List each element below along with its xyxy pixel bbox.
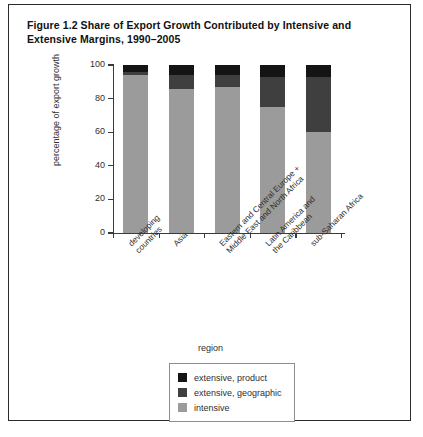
y-axis-tick-labels: 020406080100 <box>75 5 105 437</box>
legend-swatch-icon <box>178 373 187 382</box>
y-axis-tick-label: 100 <box>79 59 105 69</box>
bar-segment-intensive[interactable] <box>123 75 148 233</box>
bar-segment-extensive-product[interactable] <box>260 65 285 77</box>
legend-item-3[interactable]: intensive <box>178 400 282 415</box>
y-axis-tick-label: 60 <box>79 126 105 136</box>
legend-swatch-icon <box>178 388 187 397</box>
legend-item-label: intensive <box>194 403 230 413</box>
bar-segment-extensive-geographic[interactable] <box>215 75 240 87</box>
x-axis-title: region <box>9 343 412 353</box>
bar-segment-intensive[interactable] <box>215 87 240 233</box>
x-axis-tick <box>113 233 114 238</box>
y-axis-tick-100 <box>108 64 113 65</box>
bar-segment-intensive[interactable] <box>169 89 194 233</box>
x-axis-tick <box>204 233 205 238</box>
y-axis-title: percentage of export growth <box>51 30 61 190</box>
bar-segment-extensive-product[interactable] <box>215 65 240 75</box>
bar-1[interactable] <box>123 65 148 233</box>
bar-3[interactable] <box>215 65 240 233</box>
y-axis-tick-40 <box>108 165 113 166</box>
bar-2[interactable] <box>169 65 194 233</box>
legend-swatch-icon <box>178 403 187 412</box>
legend-item-label: extensive, geographic <box>194 388 282 398</box>
y-axis-tick-80 <box>108 98 113 99</box>
bar-segment-extensive-geographic[interactable] <box>123 72 148 75</box>
bar-segment-extensive-product[interactable] <box>123 65 148 72</box>
legend-item-label: extensive, product <box>194 373 267 383</box>
x-axis-tick <box>341 233 342 238</box>
legend-item-2[interactable]: extensive, geographic <box>178 385 282 400</box>
y-axis-tick-20 <box>108 199 113 200</box>
y-axis-tick-label: 40 <box>79 160 105 170</box>
y-axis-tick-label: 0 <box>79 227 105 237</box>
y-axis-tick-60 <box>108 132 113 133</box>
bar-segment-extensive-product[interactable] <box>169 65 194 75</box>
bar-segment-extensive-geographic[interactable] <box>306 77 331 132</box>
figure-frame: Figure 1.2 Share of Export Growth Contri… <box>8 4 411 421</box>
y-axis-tick-label: 20 <box>79 193 105 203</box>
bar-segment-extensive-product[interactable] <box>306 65 331 77</box>
chart-legend: extensive, productextensive, geographici… <box>169 363 295 422</box>
bar-segment-extensive-geographic[interactable] <box>169 75 194 88</box>
bar-segment-extensive-geographic[interactable] <box>260 77 285 107</box>
legend-item-1[interactable]: extensive, product <box>178 370 282 385</box>
y-axis-tick-label: 80 <box>79 93 105 103</box>
